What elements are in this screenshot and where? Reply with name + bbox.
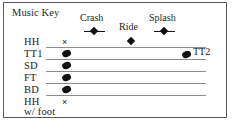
page-title: Music Key bbox=[12, 7, 59, 18]
cymbal-label-splash: Splash bbox=[149, 12, 176, 23]
staff-line-bd bbox=[46, 95, 206, 96]
cymbal-label-ride: Ride bbox=[119, 21, 138, 32]
staff-row-label-sd: SD bbox=[24, 60, 38, 71]
hh-foot-x-notehead: × bbox=[62, 98, 67, 107]
staff-line-ft bbox=[46, 83, 206, 84]
cymbal-label-crash: Crash bbox=[80, 12, 103, 23]
music-key-legend: Music Key Crash Ride Splash HH × TT1 TT2… bbox=[0, 0, 232, 121]
hh-top-x-notehead: × bbox=[62, 38, 67, 47]
staff-row-label-hh-top: HH bbox=[24, 36, 40, 47]
staff-row-label-ft: FT bbox=[24, 72, 37, 83]
staff-row-label-bd: BD bbox=[24, 84, 39, 95]
staff-line-hh-top bbox=[46, 47, 206, 48]
staff-row-label-hh-foot-line2: w/ foot bbox=[24, 106, 55, 117]
staff-line-sd bbox=[46, 71, 206, 72]
staff-row-label-tt2: TT2 bbox=[193, 46, 210, 57]
staff-row-label-tt1: TT1 bbox=[24, 48, 43, 59]
staff-line-tt1 bbox=[46, 59, 206, 60]
